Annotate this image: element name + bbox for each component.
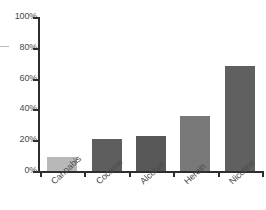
y-tick-mark <box>33 171 39 173</box>
x-tick-mark <box>129 171 131 177</box>
x-tick-mark <box>173 171 175 177</box>
y-tick-mark <box>33 140 39 142</box>
y-tick-mark <box>33 79 39 81</box>
y-tick-label: 0% <box>24 165 37 175</box>
y-tick-mark <box>33 109 39 111</box>
cropped-edge-dash <box>0 46 9 47</box>
x-tick-mark <box>84 171 86 177</box>
y-tick-label: 20% <box>20 134 37 144</box>
bar-heroin <box>180 116 210 171</box>
bar-chart: 0%20%40%60%80%100% CannabisCocaineAlcoho… <box>0 0 266 210</box>
y-tick-label: 100% <box>15 11 37 21</box>
x-tick-mark <box>262 171 264 177</box>
y-tick-mark <box>33 48 39 50</box>
bar-nicotine <box>225 66 255 171</box>
y-axis-line <box>38 17 40 172</box>
y-tick-label: 60% <box>20 73 37 83</box>
x-tick-mark <box>40 171 42 177</box>
y-tick-label: 80% <box>20 42 37 52</box>
y-tick-label: 40% <box>20 103 37 113</box>
x-tick-mark <box>218 171 220 177</box>
y-tick-mark <box>33 17 39 19</box>
